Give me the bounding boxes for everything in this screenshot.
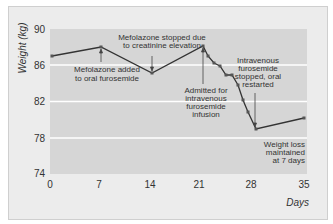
x-tick-0: 0 [47, 179, 53, 190]
x-axis-title: Days [286, 197, 309, 208]
x-tick-7: 7 [96, 179, 102, 190]
annotation-mefolazone-added-l2: to oral furosemide [75, 74, 140, 83]
weight-chart: Weight (kg) 90 86 82 78 74 0 7 14 21 28 … [0, 0, 333, 224]
y-tick-74: 74 [34, 168, 46, 179]
x-tick-35: 35 [298, 179, 310, 190]
x-tick-28: 28 [245, 179, 257, 190]
y-axis-title: Weight (kg) [17, 23, 28, 74]
x-tick-21: 21 [193, 179, 205, 190]
y-tick-82: 82 [34, 96, 46, 107]
annotation-mefolazone-added-l1: Mefolazone added [74, 65, 140, 74]
annotation-iv-stopped-l4: restarted [242, 80, 274, 89]
x-tick-14: 14 [144, 179, 156, 190]
y-tick-86: 86 [34, 60, 46, 71]
annotation-admitted-l4: infusion [192, 110, 220, 119]
annotation-mefolazone-stopped-l2: to creatinine elevation [123, 41, 201, 50]
y-tick-78: 78 [34, 133, 46, 144]
annotation-maintained-l3: at 7 days [273, 156, 305, 165]
y-tick-90: 90 [34, 24, 46, 35]
